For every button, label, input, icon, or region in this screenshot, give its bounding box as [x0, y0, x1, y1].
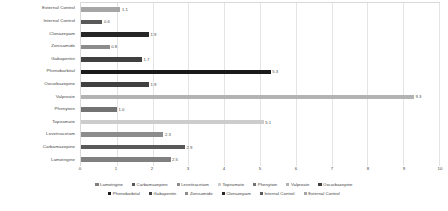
plot-canvas: 1.10.61.90.81.75.31.99.31.05.12.32.92.5 [80, 2, 440, 166]
bar-chart: External ControlInternal ControlClonazep… [0, 0, 448, 211]
legend-swatch-icon [149, 192, 152, 195]
bar [81, 7, 120, 12]
legend-swatch-icon [286, 183, 289, 186]
legend-item[interactable]: Topiramate [218, 182, 244, 188]
bar-row: 5.1 [81, 116, 439, 129]
legend-label: Phenytoin [258, 182, 278, 188]
legend-label: Levetiracetam [181, 182, 209, 188]
bar-row: 1.1 [81, 3, 439, 16]
category-label: Clonazepam [49, 31, 78, 37]
bar-row: 0.6 [81, 16, 439, 29]
bar-value-label: 1.9 [151, 32, 157, 37]
x-axis-tick-label: 9 [403, 166, 405, 172]
x-axis-tick-label: 10 [438, 166, 443, 172]
bar-value-label: 9.3 [416, 94, 422, 99]
bar [81, 132, 163, 137]
bar-value-label: 2.3 [165, 132, 171, 137]
bar [81, 70, 271, 75]
bar-value-label: 2.9 [186, 145, 192, 150]
bar-row: 1.0 [81, 103, 439, 116]
category-label: External Control [42, 5, 78, 11]
category-label: Valproate [56, 94, 78, 100]
bar [81, 32, 149, 37]
bar-value-label: 5.1 [265, 120, 271, 125]
legend-item[interactable]: Levetiracetam [177, 182, 209, 188]
legend-label: Carbamazepine [137, 182, 168, 188]
x-axis-tick-label: 8 [367, 166, 369, 172]
bar [81, 45, 110, 50]
legend-item[interactable]: External Control [304, 191, 340, 197]
bar [81, 157, 171, 162]
legend-label: Phenobarbital [113, 191, 140, 197]
legend-swatch-icon [260, 192, 263, 195]
legend-label: Topiramate [222, 182, 244, 188]
x-axis-tick-label: 0 [79, 166, 81, 172]
legend-item[interactable]: Phenytoin [253, 182, 277, 188]
legend-swatch-icon [318, 183, 321, 186]
legend-label: External Control [308, 191, 340, 197]
bar-value-label: 0.6 [104, 19, 110, 24]
bar [81, 82, 149, 87]
category-label: Gabapentin [51, 56, 78, 62]
gridline [439, 3, 440, 166]
bar-value-label: 2.5 [172, 157, 178, 162]
bar-value-label: 1.7 [143, 57, 149, 62]
legend-item[interactable]: Carbamazepine [132, 182, 168, 188]
x-axis-tick-label: 6 [295, 166, 297, 172]
legend-label: Gabapentin [154, 191, 177, 197]
bar-series: 1.10.61.90.81.75.31.99.31.05.12.32.92.5 [81, 3, 439, 166]
bar-row: 2.9 [81, 141, 439, 154]
plot-area: External ControlInternal ControlClonazep… [0, 2, 448, 170]
category-label: Carbamazepine [43, 144, 78, 150]
x-axis: 012345678910 [80, 165, 440, 176]
legend-item[interactable]: Internal Control [260, 191, 295, 197]
legend-item[interactable]: Oxcarbazepine [318, 182, 352, 188]
x-axis-tick-label: 3 [187, 166, 189, 172]
legend-row-2: PhenobarbitalGabapentinZonisamideClonaze… [0, 189, 448, 198]
legend-item[interactable]: Lamotrigine [95, 182, 123, 188]
legend-swatch-icon [177, 183, 180, 186]
legend-item[interactable]: Valproate [286, 182, 309, 188]
bar [81, 57, 142, 62]
legend-swatch-icon [222, 192, 225, 195]
category-label: Internal Control [43, 18, 78, 24]
x-axis-tick-label: 7 [331, 166, 333, 172]
bar [81, 20, 102, 25]
category-label: Levetiracetam [46, 131, 78, 137]
legend-swatch-icon [108, 192, 111, 195]
legend-item[interactable]: Zonisamide [185, 191, 212, 197]
category-label: Oxcarbazepine [44, 81, 78, 87]
bar-value-label: 0.8 [111, 44, 117, 49]
legend-row-1: LamotrigineCarbamazepineLevetiracetamTop… [0, 180, 448, 189]
category-label: Phenobarbital [47, 68, 78, 74]
legend-label: Valproate [291, 182, 310, 188]
legend-swatch-icon [95, 183, 98, 186]
x-axis-tick-label: 1 [115, 166, 117, 172]
bar-row: 2.3 [81, 128, 439, 141]
category-label: Zonisamide [51, 43, 78, 49]
legend-label: Clonazepam [226, 191, 251, 197]
x-axis-tick-label: 4 [223, 166, 225, 172]
bar-value-label: 1.0 [118, 107, 124, 112]
legend-swatch-icon [253, 183, 256, 186]
legend-swatch-icon [304, 192, 307, 195]
category-label: Lamotrigine [51, 157, 78, 163]
category-label: Topiramate [52, 119, 78, 125]
bar-row: 0.8 [81, 41, 439, 54]
bar-value-label: 1.9 [151, 82, 157, 87]
bar [81, 120, 264, 125]
bar-value-label: 5.3 [272, 69, 278, 74]
legend-item[interactable]: Clonazepam [222, 191, 251, 197]
category-axis-labels: External ControlInternal ControlClonazep… [0, 2, 78, 166]
x-axis-tick-label: 5 [259, 166, 261, 172]
legend-label: Zonisamide [190, 191, 213, 197]
bar-row: 9.3 [81, 91, 439, 104]
bar [81, 145, 185, 150]
legend-item[interactable]: Phenobarbital [108, 191, 140, 197]
legend-swatch-icon [132, 183, 135, 186]
legend-item[interactable]: Gabapentin [149, 191, 176, 197]
legend-swatch-icon [185, 192, 188, 195]
legend-label: Internal Control [264, 191, 294, 197]
legend-swatch-icon [218, 183, 221, 186]
bar-value-label: 1.1 [122, 7, 128, 12]
